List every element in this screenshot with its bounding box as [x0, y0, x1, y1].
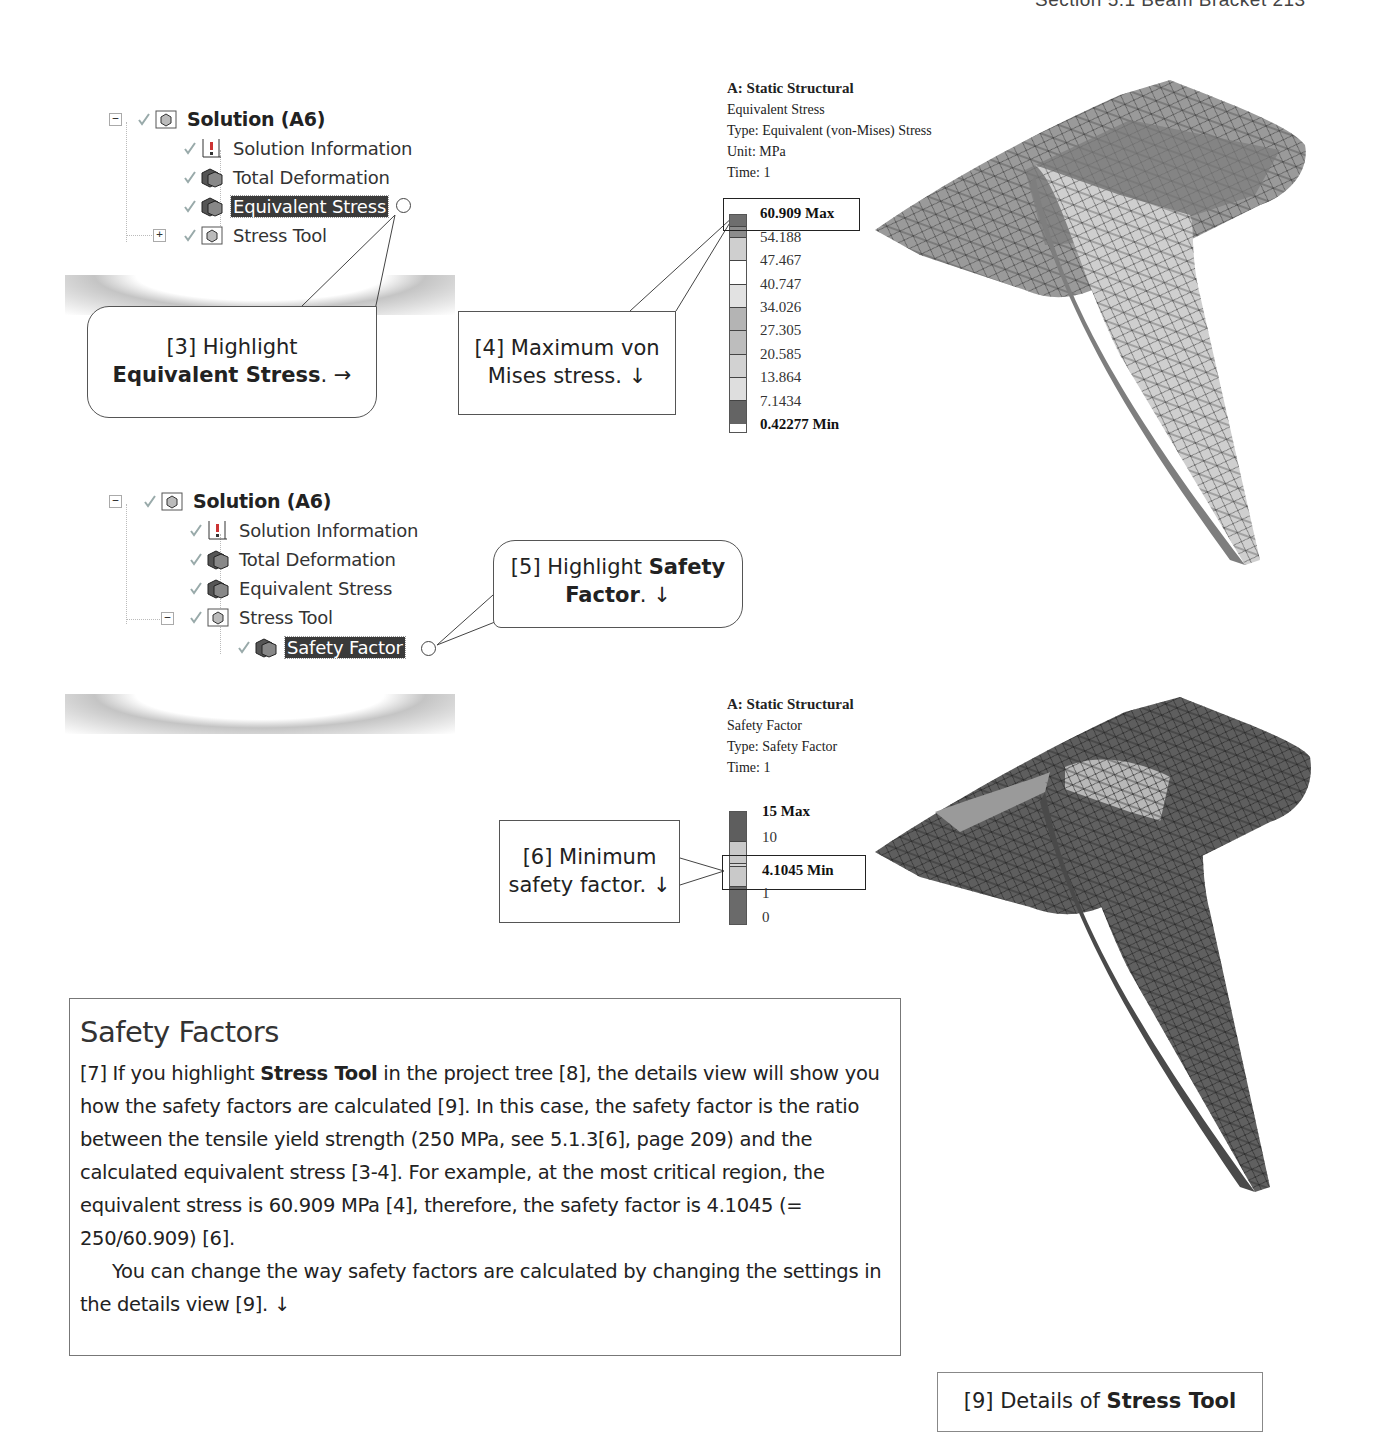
legend-label: 10	[762, 829, 777, 846]
plot2-title: A: Static Structural	[727, 694, 854, 715]
legend-max-label: 60.909 Max	[760, 205, 834, 222]
callout-text: Equivalent Stress. →	[88, 361, 376, 389]
callout-text: . ↓	[640, 583, 671, 607]
legend-label: 47.467	[760, 252, 801, 269]
callout-3: [3] Highlight Equivalent Stress. →	[87, 306, 377, 418]
legend-min-label: 4.1045 Min	[762, 862, 834, 879]
callout-bold-text: Safety	[649, 555, 725, 579]
callout-text: [3] Highlight	[88, 333, 376, 361]
callout-text: [5] Highlight	[511, 555, 649, 579]
legend-label: 13.864	[760, 369, 801, 386]
legend-label: 54.188	[760, 229, 801, 246]
note-text: [7] If you highlight	[80, 1062, 260, 1085]
note-paragraph: [7] If you highlight Stress Tool in the …	[80, 1057, 890, 1255]
plot2-line: Type: Safety Factor	[727, 736, 854, 757]
callout-text: [6] Minimum	[500, 843, 679, 871]
safety-factors-note: Safety Factors [7] If you highlight Stre…	[69, 998, 901, 1356]
note-heading: Safety Factors	[80, 1015, 890, 1049]
legend-label: 1	[762, 885, 770, 902]
note-paragraph: You can change the way safety factors ar…	[80, 1255, 890, 1321]
plot1-legend-bar	[729, 214, 747, 433]
legend-label: 7.1434	[760, 393, 801, 410]
legend-label: 34.026	[760, 299, 801, 316]
callout-text: Mises stress. ↓	[459, 362, 675, 390]
callout-text: [4] Maximum von	[459, 334, 675, 362]
plot2-line: Safety Factor	[727, 715, 854, 736]
legend-label: 40.747	[760, 276, 801, 293]
callout-bold-text: Stress Tool	[1107, 1389, 1237, 1413]
callout-4: [4] Maximum von Mises stress. ↓	[458, 311, 676, 415]
bracket-safety-factor-model	[870, 692, 1320, 1202]
callout-text: [5] Highlight Safety	[494, 553, 742, 581]
callout-bold-text: Factor	[565, 583, 640, 607]
note-bold-text: Stress Tool	[260, 1062, 377, 1085]
note-text: in the project tree [8], the details vie…	[80, 1062, 880, 1250]
callout-6: [6] Minimum safety factor. ↓	[499, 820, 680, 923]
legend-label: 20.585	[760, 346, 801, 363]
callout-text: safety factor. ↓	[500, 871, 679, 899]
bracket-stress-model	[860, 75, 1320, 575]
plot2-line: Time: 1	[727, 757, 854, 778]
callout-bold-text: Equivalent Stress	[113, 363, 321, 387]
callout-text: Factor. ↓	[494, 581, 742, 609]
callout-9: [9] Details of Stress Tool	[937, 1372, 1263, 1432]
callout-text: [9] Details of	[964, 1389, 1107, 1413]
plot2-info: A: Static Structural Safety Factor Type:…	[727, 694, 854, 778]
legend-min-label: 0.42277 Min	[760, 416, 839, 433]
legend-label: 27.305	[760, 322, 801, 339]
callout-text: . →	[320, 363, 351, 387]
legend-label: 0	[762, 909, 770, 926]
callout-5: [5] Highlight Safety Factor. ↓	[493, 540, 743, 628]
legend-max-label: 15 Max	[762, 803, 810, 820]
